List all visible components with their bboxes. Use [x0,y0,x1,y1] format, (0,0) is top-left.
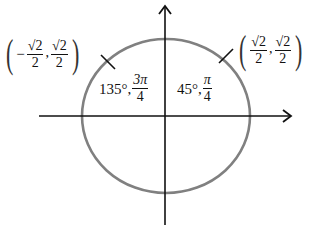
degrees-text: 135°, [99,82,131,97]
close-paren: ) [72,34,79,74]
coord-label-135: ( − √2 2 , √2 2 ) [3,34,82,74]
minus-sign: − [16,47,24,62]
close-paren: ) [295,30,302,70]
y-fraction: √2 2 [275,35,292,66]
x-fraction: √2 2 [250,35,267,66]
y-fraction: √2 2 [51,39,68,70]
angle-label-135: 135°, 3π 4 [99,73,149,104]
degrees-text: 45°, [177,82,202,97]
coord-label-45: ( √2 2 , √2 2 ) [236,30,306,70]
open-paren: ( [239,30,246,70]
angle-label-45: 45°, π 4 [177,73,213,104]
x-fraction: √2 2 [27,39,44,70]
radian-fraction: 3π 4 [132,73,148,104]
open-paren: ( [6,34,13,74]
radian-fraction: π 4 [203,73,212,104]
